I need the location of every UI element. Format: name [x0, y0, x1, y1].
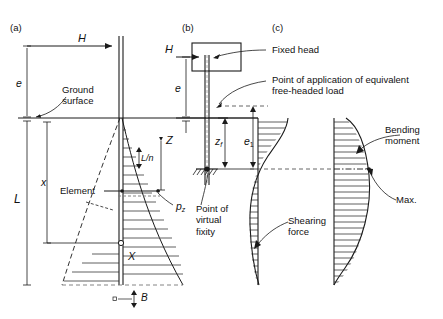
ground-surface-label-a: Ground surface — [62, 84, 94, 106]
zf-subscript: f — [220, 141, 222, 148]
panel-label-a: (a) — [10, 22, 22, 33]
pile-width-label-a: B — [141, 292, 148, 304]
element-leader-a — [86, 202, 113, 210]
shearing-force-label: Shearing force — [288, 215, 326, 238]
element-thickness-label-a: L/n — [141, 153, 154, 164]
eccentricity-label-b: e — [175, 82, 181, 94]
moment-curve-c — [334, 118, 370, 285]
figure-canvas: (a) (b) (c) H e L x Ground surface Eleme… — [0, 0, 443, 319]
point-of-application-label: Point of application of equivalent free-… — [272, 74, 409, 97]
section-marker-a — [118, 240, 123, 245]
max-leader — [370, 172, 396, 200]
pile-length-label-a: L — [14, 192, 21, 206]
section-x-label-a: X — [128, 250, 135, 263]
element-hatch-left-a — [64, 254, 119, 281]
fixed-head-label: Fixed head — [272, 44, 319, 55]
depth-x-label-a: x — [41, 176, 46, 188]
eccentricity-label-a: e — [16, 77, 22, 89]
equiv-eccentricity-label-b: e1 — [244, 135, 254, 149]
max-label: Max. — [396, 194, 417, 205]
pressure-subscript: z — [182, 206, 186, 213]
point-of-virtual-fixity-label: Point of virtual fixity — [196, 203, 228, 237]
panel-label-b: (b) — [182, 22, 194, 33]
load-label-b: H — [165, 43, 173, 56]
deflection-curve-a — [62, 118, 120, 285]
element-depth-label-a: Z — [166, 134, 173, 147]
depth-to-fixity-label-b: zf — [215, 135, 222, 149]
equiv-load-leader — [219, 81, 266, 104]
pressure-label-a: pz — [176, 200, 185, 214]
pz-leader-a — [158, 193, 173, 205]
panel-label-c: (c) — [272, 22, 283, 33]
virtual-fixity-support-b — [193, 166, 218, 175]
ground-surface-text: Ground surface — [62, 84, 94, 106]
engineering-diagram — [0, 0, 443, 319]
load-label-a: H — [78, 32, 86, 45]
element-label-a: Element — [60, 185, 95, 196]
bending-moment-label: Bending moment — [385, 124, 420, 147]
shearing-force-leader — [258, 222, 288, 244]
element-thickness-text: L/n — [141, 153, 154, 163]
e1-subscript: 1 — [250, 141, 254, 148]
